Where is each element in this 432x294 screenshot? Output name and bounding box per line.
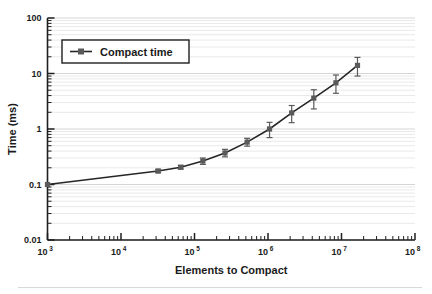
x-tick-mantissa: 10 — [111, 247, 121, 257]
x-tick-label: 107 — [331, 245, 347, 258]
x-tick-label: 108 — [405, 245, 421, 258]
x-tick-exponent: 6 — [270, 245, 274, 252]
y-tick-label: 0.01 — [24, 235, 42, 245]
x-tick-mantissa: 10 — [184, 247, 194, 257]
x-tick-mantissa: 10 — [331, 247, 341, 257]
x-tick-exponent: 5 — [196, 245, 200, 252]
x-tick-label: 106 — [258, 245, 274, 258]
y-tick-label: 10 — [31, 69, 41, 79]
y-tick-label: 1 — [36, 124, 41, 134]
chart-figure: 0.010.1110100103104105106107108Elements … — [0, 0, 432, 294]
legend-entry-label: Compact time — [100, 46, 173, 58]
x-axis-ticks — [48, 233, 416, 240]
x-tick-exponent: 3 — [49, 245, 53, 252]
x-tick-label: 104 — [111, 245, 127, 258]
x-tick-exponent: 4 — [123, 245, 127, 252]
data-point-marker — [289, 110, 294, 115]
x-tick-mantissa: 10 — [405, 247, 415, 257]
x-tick-mantissa: 10 — [258, 247, 268, 257]
y-axis-title: Time (ms) — [6, 103, 18, 155]
x-tick-exponent: 8 — [417, 245, 421, 252]
data-point-marker — [267, 126, 272, 131]
data-point-marker — [156, 168, 161, 173]
data-point-marker — [200, 158, 205, 163]
legend-marker-sample — [78, 49, 84, 55]
figure-bottom-rule — [18, 287, 422, 288]
data-point-marker — [333, 80, 338, 85]
data-point-marker — [222, 150, 227, 155]
data-point-marker — [311, 96, 316, 101]
data-point-marker — [245, 140, 250, 145]
series-line — [48, 65, 358, 184]
chart-legend[interactable]: Compact time — [62, 40, 189, 63]
data-point-marker — [178, 165, 183, 170]
log-log-line-chart: 0.010.1110100103104105106107108Elements … — [0, 0, 432, 294]
y-tick-label: 100 — [26, 13, 41, 23]
x-tick-label: 103 — [37, 245, 53, 258]
x-axis-title: Elements to Compact — [175, 264, 288, 276]
data-point-marker — [355, 63, 360, 68]
data-point-marker — [45, 182, 50, 187]
y-tick-label: 0.1 — [29, 180, 42, 190]
x-tick-exponent: 7 — [343, 245, 347, 252]
x-tick-mantissa: 10 — [37, 247, 47, 257]
x-tick-label: 105 — [184, 245, 200, 258]
